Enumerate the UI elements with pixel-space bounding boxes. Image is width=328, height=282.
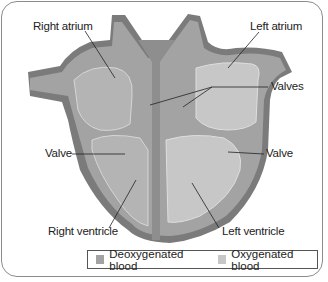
- oxygenated-swatch-icon: [218, 255, 226, 264]
- legend-item-oxygenated: Oxygenated blood: [218, 248, 317, 272]
- label-right-atrium: Right atrium: [33, 20, 93, 32]
- label-left-ventricle: Left ventricle: [222, 225, 284, 237]
- label-left-atrium: Left atrium: [250, 20, 302, 32]
- label-valve-right: Valve: [266, 147, 293, 159]
- legend-label: Deoxygenated blood: [109, 248, 206, 272]
- deoxygenated-swatch-icon: [96, 255, 104, 264]
- label-valves: Valves: [271, 80, 303, 92]
- label-valve-left: Valve: [45, 147, 72, 159]
- heart-diagram: [0, 0, 328, 282]
- legend: Deoxygenated blood Oxygenated blood: [87, 250, 318, 269]
- left-atrium-chamber: [196, 63, 259, 130]
- legend-label: Oxygenated blood: [231, 248, 317, 272]
- label-right-ventricle: Right ventricle: [48, 225, 118, 237]
- legend-item-deoxygenated: Deoxygenated blood: [96, 248, 206, 272]
